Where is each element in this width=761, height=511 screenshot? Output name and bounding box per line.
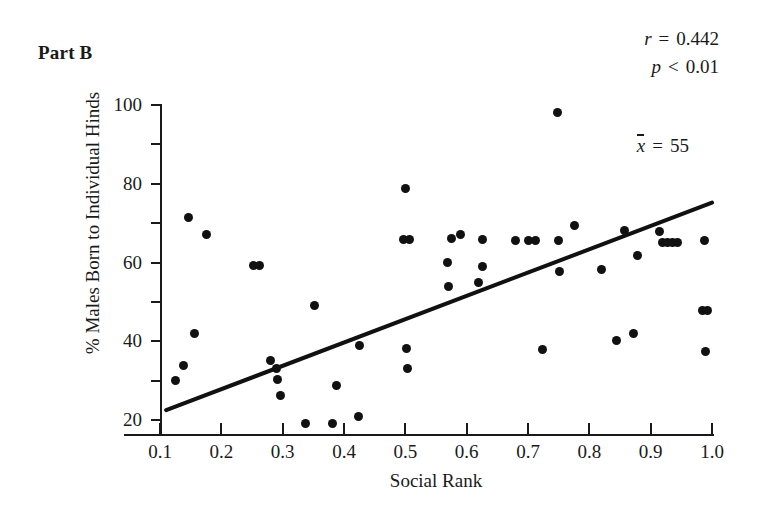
x-tick	[220, 423, 222, 434]
stat-pvalue: p<0.01	[652, 56, 719, 78]
stat-p-value: 0.01	[686, 56, 719, 77]
x-axis-title: Social Rank	[160, 470, 712, 492]
data-point	[273, 375, 282, 384]
data-point	[555, 267, 564, 276]
data-point	[179, 361, 188, 370]
data-point	[629, 329, 638, 338]
data-point	[655, 227, 664, 236]
data-point	[511, 236, 520, 245]
x-tick-label: 0.2	[191, 442, 251, 461]
y-tick-label: 100	[114, 95, 143, 114]
x-tick	[343, 423, 345, 434]
x-axis-tick-labels: 0.10.20.30.40.50.60.70.80.91.0	[0, 442, 761, 468]
data-point	[403, 364, 412, 373]
stat-correlation: r=0.442	[644, 28, 719, 50]
stat-r-relation: =	[659, 28, 670, 49]
stat-r-value: 0.442	[676, 28, 719, 49]
data-point	[612, 336, 621, 345]
data-point	[703, 306, 712, 315]
plot-area	[160, 105, 712, 420]
stat-p-symbol: p	[652, 56, 662, 77]
x-tick	[466, 423, 468, 434]
data-point	[456, 230, 465, 239]
x-tick	[650, 423, 652, 434]
y-axis-title: % Males Born to Individual Hinds	[82, 68, 104, 378]
data-point	[276, 391, 285, 400]
stat-p-relation: <	[668, 56, 679, 77]
data-point	[478, 235, 487, 244]
data-point	[355, 341, 364, 350]
data-point	[184, 213, 193, 222]
x-tick-label: 0.4	[314, 442, 374, 461]
data-point	[478, 262, 487, 271]
data-point	[633, 251, 642, 260]
x-tick-label: 0.1	[130, 442, 190, 461]
data-point	[405, 235, 414, 244]
data-point	[570, 221, 579, 230]
x-tick-label: 1.0	[682, 442, 742, 461]
data-point	[171, 376, 180, 385]
data-point	[272, 364, 281, 373]
data-point	[202, 230, 211, 239]
data-point	[354, 412, 363, 421]
data-point	[266, 356, 275, 365]
data-point	[597, 265, 606, 274]
data-point	[402, 344, 411, 353]
y-tick-label: 40	[123, 331, 142, 350]
data-point	[310, 301, 319, 310]
x-tick-label: 0.5	[375, 442, 435, 461]
x-tick	[588, 423, 590, 434]
data-point	[301, 419, 310, 428]
data-point	[701, 347, 710, 356]
x-tick	[527, 423, 529, 434]
data-point	[332, 381, 341, 390]
data-point	[444, 282, 453, 291]
x-tick-label: 0.9	[621, 442, 681, 461]
data-point	[700, 236, 709, 245]
data-point	[190, 329, 199, 338]
stat-r-symbol: r	[644, 28, 651, 49]
data-point	[538, 345, 547, 354]
x-tick	[282, 423, 284, 434]
x-tick	[711, 423, 713, 434]
data-point	[531, 236, 540, 245]
x-tick	[159, 423, 161, 434]
x-tick-label: 0.3	[253, 442, 313, 461]
data-point	[554, 236, 563, 245]
figure-canvas: Part B r=0.442 p<0.01 x=55 20406080100 0…	[0, 0, 761, 511]
x-tick-label: 0.8	[559, 442, 619, 461]
data-point	[255, 261, 264, 270]
data-point	[620, 226, 629, 235]
x-tick-label: 0.6	[437, 442, 497, 461]
y-tick-label: 80	[123, 174, 142, 193]
y-tick-label: 60	[123, 253, 142, 272]
data-point	[447, 234, 456, 243]
data-point	[553, 108, 562, 117]
data-point	[443, 258, 452, 267]
x-tick-label: 0.7	[498, 442, 558, 461]
data-point	[401, 184, 410, 193]
x-tick	[404, 423, 406, 434]
data-point	[673, 238, 682, 247]
data-point	[474, 278, 483, 287]
x-axis-ticks	[0, 423, 761, 436]
